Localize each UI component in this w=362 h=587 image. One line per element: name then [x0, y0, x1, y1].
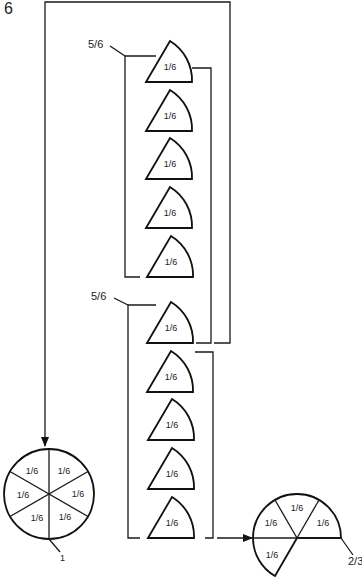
result-slice-label: 1/6 [291, 503, 304, 513]
result-slice-label: 1/6 [265, 518, 278, 528]
svg-text:1/6: 1/6 [164, 159, 177, 169]
group-1-piece: 1/6 [146, 138, 192, 179]
fraction-diagram: 6 5/6 1/6 1/6 1/6 1/6 1/6 [0, 0, 362, 587]
group-2: 5/6 1/6 1/6 1/6 1/6 1/6 [91, 290, 213, 538]
group-1-piece: 1/6 [147, 236, 193, 277]
group-1-label: 5/6 [88, 38, 103, 50]
svg-text:1/6: 1/6 [166, 518, 179, 528]
whole-circle: 1/6 1/6 1/6 1/6 1/6 1/6 1 [4, 449, 94, 563]
result-circle-label: 2/3 [348, 555, 362, 567]
svg-text:1/6: 1/6 [166, 469, 179, 479]
group-1-left-bracket [125, 56, 156, 277]
svg-text:1/6: 1/6 [164, 208, 177, 218]
whole-circle-leader-line [49, 539, 60, 552]
result-slice-label: 1/6 [317, 518, 330, 528]
svg-text:1/6: 1/6 [166, 420, 179, 430]
whole-slice-label: 1/6 [17, 490, 30, 500]
result-circle: 1/6 1/6 1/6 1/6 2/3 [253, 494, 362, 576]
whole-slice-label: 1/6 [59, 512, 72, 522]
svg-text:1/6: 1/6 [165, 372, 178, 382]
whole-slice-label: 1/6 [26, 466, 39, 476]
group-2-piece: 1/6 [147, 351, 193, 392]
group-2-label: 5/6 [91, 290, 106, 302]
group-1: 5/6 1/6 1/6 1/6 1/6 1/6 [88, 38, 211, 343]
group-1-piece: 1/6 [146, 41, 192, 82]
svg-text:1/6: 1/6 [165, 257, 178, 267]
result-slice-label: 1/6 [266, 550, 279, 560]
group-2-piece: 1/6 [147, 302, 193, 343]
svg-text:1/6: 1/6 [164, 111, 177, 121]
group-2-piece: 1/6 [148, 399, 194, 440]
whole-circle-label: 1 [60, 553, 65, 563]
whole-slice-label: 1/6 [58, 466, 71, 476]
group-2-piece: 1/6 [148, 448, 194, 489]
group-2-piece: 1/6 [148, 497, 194, 538]
group-2-leader-line [114, 298, 128, 305]
svg-text:1/6: 1/6 [165, 323, 178, 333]
group-2-right-bracket [195, 352, 213, 538]
result-circle-leader-line [341, 538, 353, 555]
figure-number: 6 [4, 0, 13, 17]
whole-slice-label: 1/6 [72, 489, 85, 499]
group-1-piece: 1/6 [146, 90, 192, 131]
svg-text:1/6: 1/6 [164, 62, 177, 72]
group-1-right-bracket [192, 68, 211, 343]
group-1-piece: 1/6 [146, 187, 192, 228]
group-1-leader-line [110, 46, 125, 56]
whole-slice-label: 1/6 [31, 513, 44, 523]
